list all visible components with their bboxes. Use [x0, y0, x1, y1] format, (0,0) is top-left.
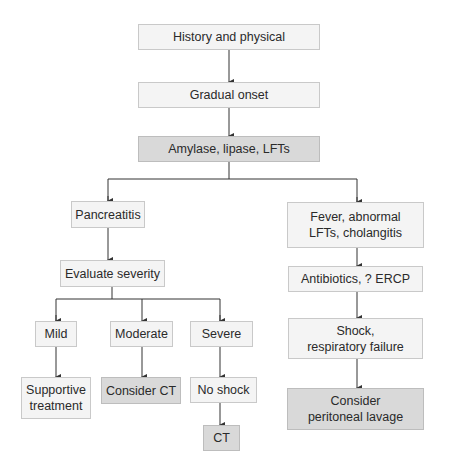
node-pancreatitis: Pancreatitis	[71, 201, 145, 228]
node-severe: Severe	[190, 321, 253, 347]
node-moderate: Moderate	[110, 321, 173, 347]
node-mild: Mild	[35, 321, 77, 347]
node-ct: CT	[203, 425, 240, 451]
node-consider-ct: Consider CT	[101, 377, 181, 404]
node-evaluate-severity: Evaluate severity	[60, 260, 165, 287]
node-fever-cholangitis: Fever, abnormal LFTs, cholangitis	[287, 202, 424, 248]
node-antibiotics-ercp: Antibiotics, ? ERCP	[288, 266, 423, 292]
node-peritoneal-lavage: Consider peritoneal lavage	[287, 388, 424, 430]
node-gradual-onset: Gradual onset	[138, 82, 320, 108]
node-supportive-treatment: Supportive treatment	[21, 377, 91, 419]
node-labs: Amylase, lipase, LFTs	[138, 136, 320, 162]
node-no-shock: No shock	[190, 377, 257, 403]
node-shock-respiratory-failure: Shock, respiratory failure	[288, 318, 423, 359]
node-history-and-physical: History and physical	[138, 24, 320, 50]
